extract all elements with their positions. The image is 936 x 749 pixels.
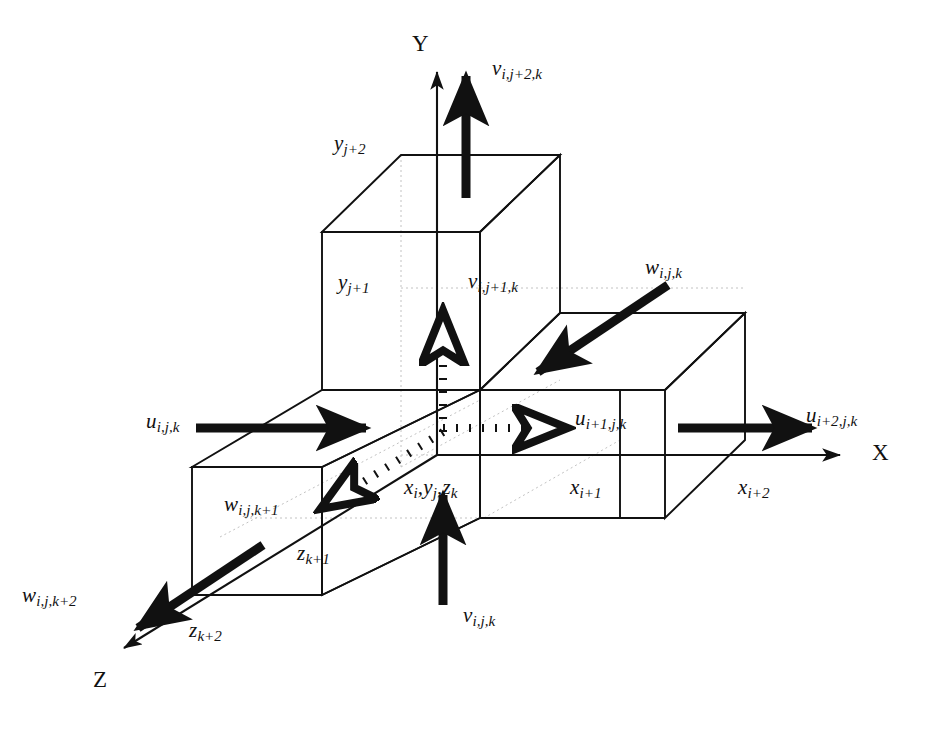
label-v-bottom: vi,j,k <box>463 605 495 629</box>
label-w-front-sub: i,j,k+2 <box>36 593 76 609</box>
label-x-i-plus-1: xi+1 <box>570 477 601 501</box>
label-v-bottom-sub: i,j,k <box>473 613 496 629</box>
label-x-i-plus-2-sub: i+2 <box>748 485 770 501</box>
label-y-j-plus-1: yj+1 <box>338 272 369 296</box>
label-w-middle-base: w <box>224 492 238 516</box>
label-x-i-plus-1-base: x <box>570 475 580 499</box>
label-u-right-base: u <box>806 403 817 427</box>
label-cell-center-x: x <box>404 475 414 499</box>
arrow-w-back <box>538 285 668 372</box>
label-y-j-plus-2-sub: j+2 <box>344 141 366 157</box>
label-u-middle-sub: i+1,j,k <box>586 416 626 432</box>
label-v-top: vi,j+2,k <box>492 58 542 82</box>
label-v-bottom-base: v <box>463 603 473 627</box>
hidden-construction-lines <box>220 155 745 537</box>
label-v-top-base: v <box>492 56 502 80</box>
label-cell-center-z: z <box>442 475 450 499</box>
arrow-w-front <box>138 545 263 628</box>
label-x-i-plus-2-base: x <box>738 475 748 499</box>
label-z-k-plus-2-sub: k+2 <box>197 628 221 644</box>
label-cell-center-y: y <box>423 475 433 499</box>
label-w-back: wi,j,k <box>645 257 682 281</box>
label-u-right: ui+2,j,k <box>806 405 857 429</box>
label-y-j-plus-2-base: y <box>334 131 344 155</box>
staggered-grid-svg <box>0 0 936 749</box>
label-y-j-plus-2: yj+2 <box>334 133 365 157</box>
label-w-middle-sub: i,j,k+1 <box>238 502 278 518</box>
label-w-front: wi,j,k+2 <box>22 585 77 609</box>
label-z-k-plus-1: zk+1 <box>297 543 330 567</box>
axis-label-z: Z <box>93 668 107 691</box>
label-u-left: ui,j,k <box>146 411 179 435</box>
label-z-k-plus-2: zk+2 <box>189 620 222 644</box>
label-v-top-sub: i,j+2,k <box>502 66 542 82</box>
label-w-middle: wi,j,k+1 <box>224 494 279 518</box>
label-y-j-plus-1-base: y <box>338 270 348 294</box>
label-cell-center: xi,yj,zk <box>404 477 457 501</box>
z-axis-line <box>124 455 437 648</box>
label-u-left-sub: i,j,k <box>157 419 180 435</box>
label-u-right-sub: i+2,j,k <box>817 413 857 429</box>
axis-label-x: X <box>872 441 889 464</box>
label-y-j-plus-1-sub: j+1 <box>348 280 370 296</box>
label-w-front-base: w <box>22 583 36 607</box>
label-x-i-plus-1-sub: i+1 <box>580 485 602 501</box>
label-x-i-plus-2: xi+2 <box>738 477 769 501</box>
label-z-k-plus-1-sub: k+1 <box>305 551 329 567</box>
label-u-middle: ui+1,j,k <box>575 408 626 432</box>
label-w-back-base: w <box>645 255 659 279</box>
label-u-middle-base: u <box>575 406 586 430</box>
label-v-middle: vi,j+1,k <box>468 271 518 295</box>
axis-label-y: Y <box>412 32 429 55</box>
diagram-canvas: Y X Z vi,j+2,k vi,j+1,k vi,j,k ui,j,k ui… <box>0 0 936 749</box>
label-v-middle-base: v <box>468 269 478 293</box>
label-u-left-base: u <box>146 409 157 433</box>
label-cell-center-sub-k: k <box>451 485 458 501</box>
label-w-back-sub: i,j,k <box>659 265 682 281</box>
label-v-middle-sub: i,j+1,k <box>478 279 518 295</box>
velocity-arrows-solid <box>138 76 812 628</box>
